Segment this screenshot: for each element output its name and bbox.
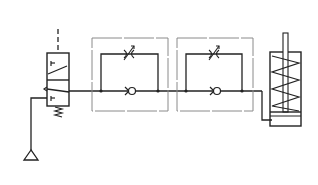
main-line <box>69 91 272 120</box>
flow-control-valve-1 <box>92 38 168 111</box>
flow-control-valve-2 <box>177 38 253 111</box>
pneumatic-diagram <box>0 0 318 185</box>
supply-line <box>24 98 47 160</box>
spring-return-cylinder <box>270 33 301 126</box>
directional-valve <box>44 53 69 117</box>
spring-icon <box>55 107 62 117</box>
pressure-source-icon <box>24 150 38 160</box>
